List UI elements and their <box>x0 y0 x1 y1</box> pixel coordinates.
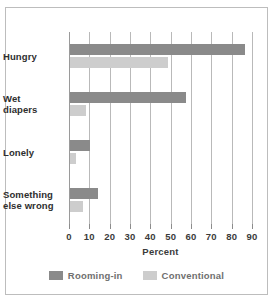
category-label-hungry: Hungry <box>3 51 69 62</box>
category-labels: HungryWetdiapersLonelySomethingelse wron… <box>3 32 69 224</box>
tick-20 <box>110 224 111 229</box>
bar-conventional-lonely <box>70 153 76 164</box>
category-label-wet-diapers: Wetdiapers <box>3 93 69 115</box>
bar-rooming-in-hungry <box>70 44 245 55</box>
bar-rooming-in-wet-diapers <box>70 92 186 103</box>
legend-item-conventional[interactable]: Conventional <box>143 270 225 281</box>
tick-label-80: 80 <box>226 231 237 242</box>
tick-30 <box>130 224 131 229</box>
bar-conventional-hungry <box>70 57 168 68</box>
chart-legend: Rooming-in Conventional <box>6 270 267 281</box>
gridline-80 <box>232 32 233 224</box>
tick-0 <box>69 224 70 229</box>
gridline-50 <box>171 32 172 224</box>
gridline-60 <box>191 32 192 224</box>
tick-label-40: 40 <box>145 231 156 242</box>
tick-label-50: 50 <box>165 231 176 242</box>
x-axis-label: Percent <box>69 246 252 257</box>
tick-label-70: 70 <box>206 231 217 242</box>
bar-conventional-wet-diapers <box>70 105 86 116</box>
tick-40 <box>150 224 151 229</box>
gridline-90 <box>252 32 253 224</box>
bar-rooming-in-something-else-wrong <box>70 188 98 199</box>
legend-label-rooming-in: Rooming-in <box>68 270 123 281</box>
tick-label-30: 30 <box>125 231 136 242</box>
legend-swatch-conventional <box>143 271 157 280</box>
legend-label-conventional: Conventional <box>162 270 225 281</box>
tick-label-10: 10 <box>84 231 95 242</box>
tick-60 <box>191 224 192 229</box>
tick-label-20: 20 <box>104 231 115 242</box>
tick-70 <box>211 224 212 229</box>
tick-label-90: 90 <box>247 231 258 242</box>
tick-50 <box>171 224 172 229</box>
legend-swatch-rooming-in <box>49 271 63 280</box>
tick-80 <box>232 224 233 229</box>
tick-label-0: 0 <box>66 231 71 242</box>
category-label-something-else-wrong: Somethingelse wrong <box>3 189 69 211</box>
bar-conventional-something-else-wrong <box>70 201 83 212</box>
tick-label-60: 60 <box>186 231 197 242</box>
category-label-lonely: Lonely <box>3 147 69 158</box>
tick-90 <box>252 224 253 229</box>
bar-rooming-in-lonely <box>70 140 90 151</box>
chart-figure: 0102030405060708090 HungryWetdiapersLone… <box>5 7 268 295</box>
gridline-70 <box>211 32 212 224</box>
plot-area: 0102030405060708090 HungryWetdiapersLone… <box>69 32 252 224</box>
tick-10 <box>89 224 90 229</box>
legend-item-rooming-in[interactable]: Rooming-in <box>49 270 123 281</box>
